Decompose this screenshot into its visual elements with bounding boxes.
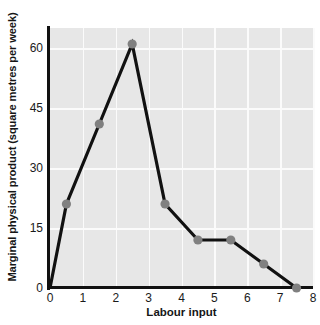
x-tick-label: 6 [237,292,257,304]
x-tick-label: 1 [73,292,93,304]
data-point-marker [62,199,71,208]
data-point-marker [226,235,235,244]
series-markers [62,39,301,292]
data-point-marker [95,119,104,128]
x-tick-label: 2 [106,292,126,304]
data-point-marker [259,259,268,268]
y-tick-label: 60 [13,42,43,54]
x-tick-label: 8 [303,292,320,304]
series-line [50,44,297,288]
x-tick-label: 5 [204,292,224,304]
y-tick-label: 15 [13,222,43,234]
x-tick-label: 0 [40,292,60,304]
data-point-marker [292,283,301,292]
chart-figure: Marginal physical product (square metres… [0,0,320,325]
y-tick-label: 45 [13,102,43,114]
data-point-marker [193,235,202,244]
y-tick-label: 0 [13,282,43,294]
data-point-marker [160,199,169,208]
data-plot [0,0,320,325]
y-tick-label: 30 [13,162,43,174]
x-tick-label: 3 [139,292,159,304]
x-axis-label: Labour input [50,306,313,318]
x-tick-label: 4 [172,292,192,304]
data-point-marker [128,39,137,48]
x-tick-label: 7 [270,292,290,304]
